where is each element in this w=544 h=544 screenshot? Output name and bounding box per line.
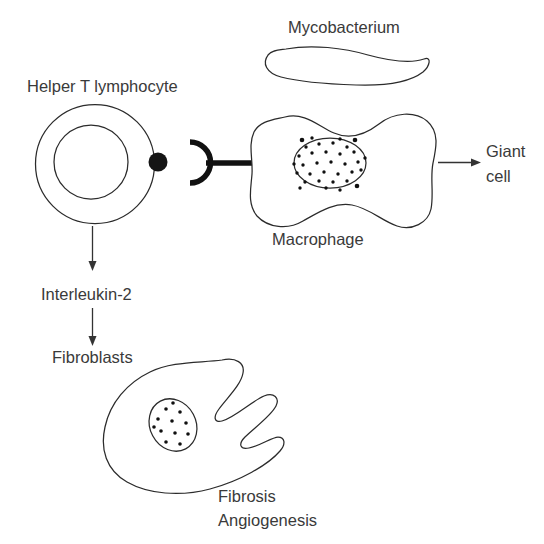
label-fibroblasts: Fibroblasts (52, 348, 133, 366)
diagram-canvas: Helper T lymphocyte Mycobacterium Macrop… (0, 0, 544, 544)
lymphocyte-nucleus (54, 125, 128, 199)
antigen-presentation-connector[interactable] (149, 142, 253, 183)
antigen-dot-icon (149, 153, 168, 172)
arrow-head-icon (89, 336, 97, 346)
label-giant-cell-line1: Giant (486, 142, 526, 160)
mycobacterium-outline (265, 47, 429, 85)
macrophage-to-giant-cell-arrow (438, 159, 481, 167)
label-giant-cell-line2: cell (486, 167, 511, 185)
lymphocyte-to-il2-arrow (89, 226, 97, 271)
helper-t-lymphocyte-cell[interactable] (36, 105, 155, 224)
label-helper-t-lymphocyte: Helper T lymphocyte (27, 77, 178, 95)
label-fibrosis: Fibrosis (218, 487, 276, 505)
granuloma-diagram-svg: Helper T lymphocyte Mycobacterium Macrop… (0, 0, 544, 544)
arrow-head-icon (471, 159, 481, 167)
label-mycobacterium: Mycobacterium (288, 18, 400, 36)
macrophage-cell[interactable] (250, 114, 436, 227)
label-angiogenesis: Angiogenesis (218, 511, 317, 529)
il2-to-fibroblasts-arrow (89, 308, 97, 346)
arrow-head-icon (89, 261, 97, 271)
label-macrophage: Macrophage (272, 230, 364, 248)
fibroblast-cell[interactable] (103, 359, 284, 493)
mycobacterium-cell[interactable] (265, 47, 429, 85)
label-interleukin-2: Interleukin-2 (41, 285, 132, 303)
